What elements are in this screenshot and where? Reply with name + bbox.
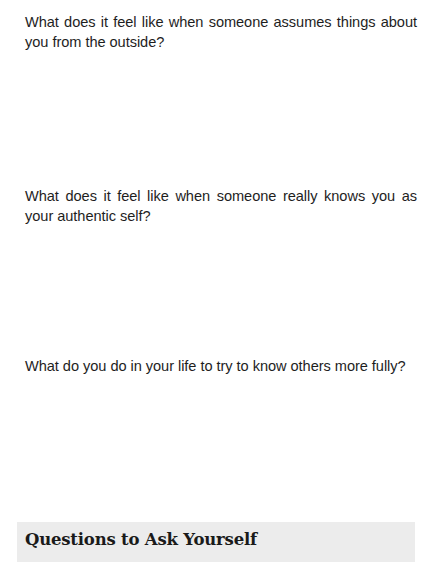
section-heading: Questions to Ask Yourself xyxy=(25,530,257,550)
section-header-bar: Questions to Ask Yourself xyxy=(17,522,415,562)
reflection-question-1: What does it feel like when someone assu… xyxy=(25,12,417,52)
reflection-question-3: What do you do in your life to try to kn… xyxy=(25,356,417,376)
reflection-question-2: What does it feel like when someone real… xyxy=(25,186,417,226)
